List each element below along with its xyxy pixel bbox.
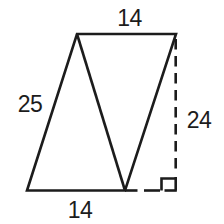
bottom-side-label: 14: [68, 197, 93, 223]
middle-diagonal-line: [77, 34, 125, 191]
left-side-label: 25: [18, 91, 43, 117]
top-side-label: 14: [117, 5, 142, 31]
altitude-label: 24: [187, 107, 212, 133]
triangle-figure: 14 25 24 14: [0, 0, 224, 224]
diagram-canvas: 14 25 24 14: [0, 0, 224, 224]
